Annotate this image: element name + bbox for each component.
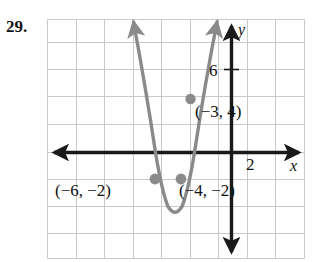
y-tick-label-6: 6 (209, 61, 218, 81)
axes (54, 26, 299, 252)
point-label-a: (−3, 4) (195, 102, 241, 122)
coordinate-plane (47, 19, 306, 259)
point-label-b: (−6, −2) (55, 181, 111, 201)
plotted-points (150, 94, 196, 185)
grid-lines (48, 20, 305, 259)
point-marker-b (150, 174, 161, 185)
graph-figure: 29. (0, 0, 320, 262)
exercise-number: 29. (6, 17, 27, 37)
graph-svg (47, 19, 306, 259)
point-label-c: (−4, −2) (179, 181, 235, 201)
x-tick-label-2: 2 (246, 155, 255, 175)
y-axis-label: y (238, 21, 245, 39)
x-axis-label: x (290, 157, 297, 175)
